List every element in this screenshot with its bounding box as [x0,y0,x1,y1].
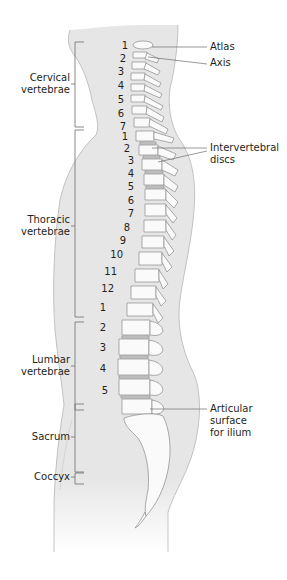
label-line: vertebrae [8,226,70,238]
thoracic-number: 3 [118,155,134,166]
label-line: Articular [210,403,253,415]
label-line: Atlas [210,41,235,53]
thoracic-number: 11 [101,266,117,277]
cervical-number: 6 [108,108,124,119]
lumbar-number: 5 [92,385,108,396]
thoracic-number: 2 [114,143,130,154]
label-line: Axis [210,57,231,69]
label-atlas: Atlas [210,41,235,53]
label-line: Intervertebral [210,142,279,154]
label-axis: Axis [210,57,231,69]
cervical-number: 3 [108,66,124,77]
label-line: vertebrae [8,366,70,378]
label-articular-surface-for-ilium: Articular surface for ilium [210,403,253,439]
thoracic-number: 7 [118,208,134,219]
lumbar-number: 3 [90,342,106,353]
label-intervertebral-discs: Intervertebral discs [210,142,279,166]
cervical-number: 1 [112,40,128,51]
label-thoracic-vertebrae: Thoracic vertebrae [8,214,70,238]
label-line: for ilium [210,427,253,439]
thoracic-number: 5 [118,181,134,192]
thoracic-number: 6 [118,195,134,206]
thoracic-number: 9 [110,235,126,246]
label-line: Coccyx [8,471,70,483]
label-sacrum: Sacrum [8,431,70,443]
label-line: Thoracic [8,214,70,226]
label-line: Lumbar [8,354,70,366]
cervical-number: 4 [108,80,124,91]
cervical-number: 2 [110,53,126,64]
lumbar-number: 1 [90,302,106,313]
lumbar-number: 4 [90,363,106,374]
cervical-number: 5 [108,94,124,105]
thoracic-number: 4 [118,168,134,179]
label-line: Cervical [8,72,70,84]
label-lumbar-vertebrae: Lumbar vertebrae [8,354,70,378]
label-coccyx: Coccyx [8,471,70,483]
thoracic-number: 8 [114,222,130,233]
thoracic-number: 10 [107,249,123,260]
label-line: vertebrae [8,84,70,96]
label-line: discs [210,154,279,166]
label-cervical-vertebrae: Cervical vertebrae [8,72,70,96]
lumbar-number: 2 [90,322,106,333]
label-line: Sacrum [8,431,70,443]
label-line: surface [210,415,253,427]
thoracic-number: 1 [112,131,128,142]
thoracic-number: 12 [98,283,114,294]
